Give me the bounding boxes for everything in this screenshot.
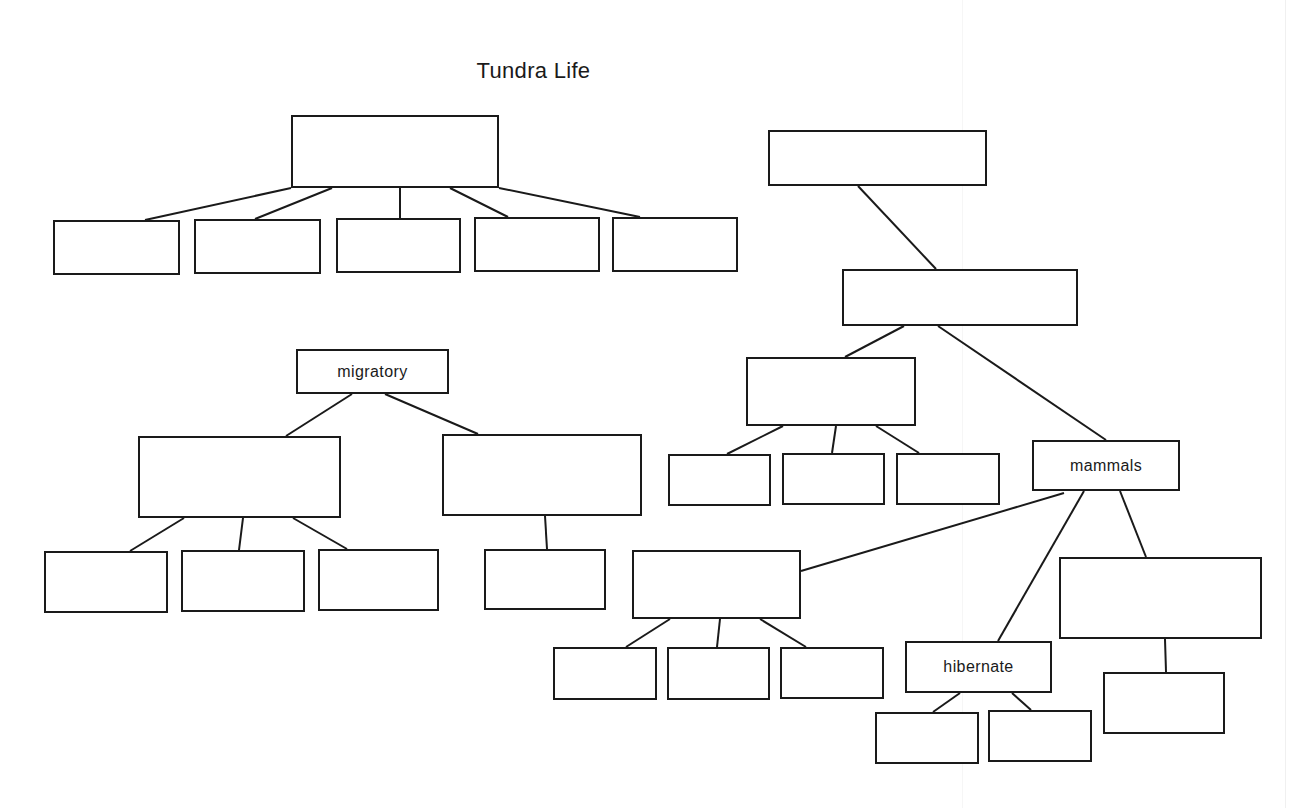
empty-node-box [875,712,979,764]
empty-node-box [988,710,1092,762]
node-label: migratory [337,363,407,381]
connector-n16-n20 [545,516,547,549]
connector-n7-n8 [858,186,936,269]
empty-node-box [668,454,771,506]
empty-node-box [53,220,180,275]
concept-map-canvas: Tundra Life mammalsmigratoryhibernate [0,0,1291,808]
connector-n25-n27 [933,693,960,712]
empty-node-box [44,551,168,613]
connector-n15-n17 [130,518,184,551]
empty-node-box [318,549,439,611]
empty-node-box [667,647,770,700]
empty-node-box [842,269,1078,326]
connector-n9-n10 [727,426,783,454]
empty-node-box [632,550,801,619]
connector-n25-n28 [1012,693,1031,710]
connector-n8-n13 [938,326,1106,440]
empty-node-box [484,549,606,610]
connector-n26-n29 [1165,639,1166,672]
empty-node-box [612,217,738,272]
connector-n1-n6 [499,188,640,217]
connector-n14-n16 [385,394,478,434]
empty-node-box [896,453,1000,505]
empty-node-box [181,550,305,612]
empty-node-box [768,130,987,186]
node-migratory: migratory [296,349,449,394]
diagram-title: Tundra Life [0,58,1067,84]
connector-n21-n23 [717,619,720,647]
connector-n15-n18 [239,518,243,550]
connector-n9-n11 [832,426,836,453]
connector-n1-n2 [145,188,291,220]
empty-node-box [746,357,916,426]
connector-n1-n5 [450,188,508,217]
node-label: hibernate [943,658,1013,676]
connector-n14-n15 [286,394,352,436]
empty-node-box [291,115,499,188]
connector-n21-n24 [760,619,806,647]
node-label: mammals [1070,457,1142,475]
empty-node-box [1103,672,1225,734]
empty-node-box [442,434,642,516]
node-hibernate: hibernate [905,641,1052,693]
connector-n21-n22 [626,619,670,647]
empty-node-box [1059,557,1262,639]
empty-node-box [553,647,657,700]
connector-n13-n26 [1120,491,1146,557]
connector-n8-n9 [845,326,904,357]
connector-n15-n19 [293,518,347,549]
node-mammals: mammals [1032,440,1180,491]
empty-node-box [138,436,341,518]
empty-node-box [474,217,600,272]
empty-node-box [336,218,461,273]
empty-node-box [782,453,885,505]
empty-node-box [194,219,321,274]
empty-node-box [780,647,884,699]
connector-n9-n12 [876,426,919,453]
